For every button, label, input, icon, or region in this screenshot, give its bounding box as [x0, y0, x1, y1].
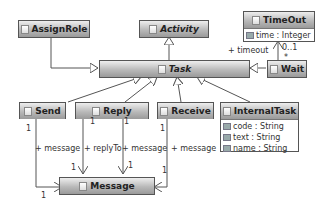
attribute-icon: [223, 145, 231, 152]
class-reply[interactable]: Reply: [75, 102, 149, 119]
role-label-reply-replyto: + replyTo: [84, 144, 122, 153]
generalization-receive-task: [177, 77, 181, 102]
class-icon: [79, 182, 87, 191]
multiplicity-label: 1: [160, 124, 165, 133]
attribute-icon: [223, 123, 231, 130]
attribute-row: code : String: [223, 121, 296, 132]
class-receive[interactable]: Receive: [157, 102, 214, 119]
class-name: InternalTask: [234, 106, 297, 116]
role-label-receive-message: + message: [171, 144, 216, 153]
class-activity[interactable]: Activity: [139, 20, 209, 38]
class-icon: [24, 107, 32, 116]
class-wait[interactable]: Wait: [267, 60, 307, 78]
multiplicity-label: 0..1: [282, 43, 297, 52]
class-internaltask[interactable]: InternalTask code : String text : String…: [220, 102, 299, 152]
class-name: Send: [35, 106, 60, 116]
attribute-icon: [223, 134, 231, 141]
multiplicity-label: 1: [90, 117, 95, 126]
class-name: Wait: [281, 64, 304, 74]
attribute-icon: [246, 32, 254, 39]
class-task[interactable]: Task: [99, 60, 250, 78]
class-send[interactable]: Send: [19, 102, 66, 119]
multiplicity-label: 1: [41, 191, 46, 200]
role-label-timeout: + timeout: [228, 46, 268, 55]
class-icon: [270, 65, 278, 74]
role-label-send-message: + message: [35, 144, 80, 153]
class-name: Task: [169, 64, 192, 74]
attribute-row: time : Integer: [246, 30, 312, 41]
class-icon: [92, 107, 100, 116]
attribute-row: text : String: [223, 132, 296, 143]
class-name: Receive: [171, 106, 211, 116]
multiplicity-label: 1: [162, 166, 167, 175]
class-icon: [223, 107, 231, 116]
multiplicity-label: *: [284, 53, 288, 62]
generalization-internaltask-task: [197, 77, 250, 102]
class-name: TimeOut: [263, 15, 306, 25]
multiplicity-label: 1: [71, 163, 76, 172]
generalization-assignrole-task: [51, 37, 98, 68]
class-name: Activity: [160, 24, 199, 34]
class-icon: [160, 107, 168, 116]
attribute-row: name : String: [223, 143, 296, 154]
role-label-reply-message: + message: [122, 144, 167, 153]
multiplicity-label: 1: [26, 124, 31, 133]
class-icon: [252, 16, 260, 25]
class-icon: [149, 25, 157, 34]
class-timeout[interactable]: TimeOut time : Integer: [243, 11, 315, 42]
class-assignrole[interactable]: AssignRole: [18, 20, 90, 38]
class-name: Reply: [103, 106, 131, 116]
class-icon: [21, 25, 29, 34]
class-message[interactable]: Message: [59, 177, 155, 195]
multiplicity-label: 1: [128, 161, 133, 170]
multiplicity-label: 1: [124, 117, 129, 126]
class-icon: [158, 65, 166, 74]
class-name: Message: [90, 181, 134, 191]
class-name: AssignRole: [32, 24, 88, 34]
